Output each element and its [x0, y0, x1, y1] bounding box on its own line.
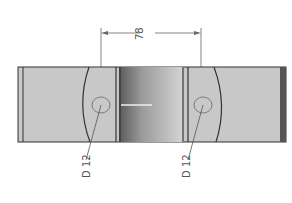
part-body: [18, 67, 286, 142]
hole-label-right: D 12: [181, 154, 192, 178]
hole-label-left: D 12: [81, 154, 92, 178]
dimension-label: 78: [134, 27, 145, 40]
technical-drawing: 78 D 12 D 12: [0, 0, 292, 203]
